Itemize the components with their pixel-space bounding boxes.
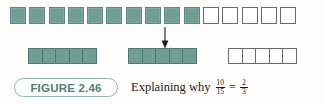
group1-cell-1 bbox=[28, 48, 43, 64]
top-square-2 bbox=[29, 7, 45, 24]
group3-cell-3 bbox=[255, 48, 270, 64]
top-square-15 bbox=[280, 7, 296, 24]
group3-cell-5 bbox=[282, 48, 297, 64]
group1-cell-4 bbox=[69, 48, 84, 64]
top-square-13 bbox=[242, 7, 258, 24]
top-square-4 bbox=[68, 7, 84, 24]
top-square-5 bbox=[87, 7, 103, 24]
top-row-squares bbox=[10, 7, 296, 24]
figure-container: FIGURE 2.46 Explaining why 10 15 = 2 3 bbox=[0, 0, 325, 104]
fraction-denominator: 3 bbox=[241, 88, 247, 96]
group2-cell-5 bbox=[182, 48, 197, 64]
group1-cell-2 bbox=[42, 48, 57, 64]
bottom-group-1 bbox=[28, 48, 97, 64]
fraction-numerator: 10 bbox=[216, 79, 226, 87]
group3-cell-1 bbox=[228, 48, 243, 64]
top-square-11 bbox=[203, 7, 219, 24]
top-square-1 bbox=[10, 7, 26, 24]
top-square-3 bbox=[49, 7, 65, 24]
group2-cell-3 bbox=[155, 48, 170, 64]
group2-cell-1 bbox=[128, 48, 143, 64]
equals-sign: = bbox=[229, 80, 236, 95]
group2-cell-2 bbox=[142, 48, 157, 64]
top-square-9 bbox=[164, 7, 180, 24]
fraction-ten-fifteenths: 10 15 bbox=[216, 79, 226, 96]
top-square-7 bbox=[126, 7, 142, 24]
group1-cell-3 bbox=[55, 48, 70, 64]
group2-cell-4 bbox=[169, 48, 184, 64]
fraction-two-thirds: 2 3 bbox=[240, 79, 248, 96]
top-square-8 bbox=[145, 7, 161, 24]
top-square-10 bbox=[184, 7, 200, 24]
figure-number-badge: FIGURE 2.46 bbox=[14, 78, 118, 97]
top-square-14 bbox=[261, 7, 277, 24]
group3-cell-2 bbox=[242, 48, 257, 64]
figure-number-label: FIGURE 2.46 bbox=[30, 82, 101, 94]
top-square-12 bbox=[222, 7, 238, 24]
fraction-denominator: 15 bbox=[216, 88, 226, 96]
group1-cell-5 bbox=[82, 48, 97, 64]
bottom-group-2 bbox=[128, 48, 197, 64]
down-arrow-icon bbox=[159, 27, 171, 49]
bottom-group-3 bbox=[228, 48, 297, 64]
fraction-numerator: 2 bbox=[241, 79, 247, 87]
figure-caption: Explaining why 10 15 = 2 3 bbox=[131, 78, 249, 97]
top-square-6 bbox=[106, 7, 122, 24]
caption-lead-text: Explaining why bbox=[131, 80, 211, 95]
group3-cell-4 bbox=[269, 48, 284, 64]
